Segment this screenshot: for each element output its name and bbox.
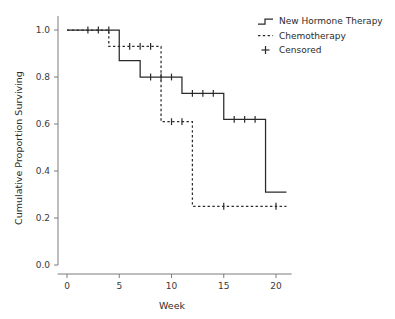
x-axis-ticks: 05101520	[64, 274, 282, 291]
y-tick-label: 0.6	[36, 119, 51, 129]
y-tick-label: 0.8	[36, 72, 51, 82]
y-axis-title: Cumulative Proportion Surviving	[13, 71, 24, 225]
legend-label: New Hormone Therapy	[279, 16, 383, 26]
chart-legend: New Hormone TherapyChemotherapyCensored	[258, 16, 383, 55]
x-tick-label: 10	[166, 281, 178, 291]
censor-marks-group	[88, 27, 276, 210]
y-tick-label: 0.2	[36, 213, 50, 223]
x-tick-label: 0	[64, 281, 70, 291]
legend-entry: Censored	[262, 45, 322, 55]
series-line-0	[67, 30, 286, 192]
series-line-1	[67, 30, 286, 206]
y-tick-label: 0.0	[36, 260, 51, 270]
legend-label: Censored	[279, 45, 321, 55]
x-tick-label: 20	[270, 281, 282, 291]
x-axis-title: Week	[159, 300, 186, 311]
y-tick-label: 1.0	[36, 25, 51, 35]
y-axis-ticks: 0.00.20.40.60.81.0	[36, 25, 58, 270]
y-tick-label: 0.4	[36, 166, 51, 176]
kaplan-meier-plot: 0.00.20.40.60.81.0 05101520 Cumulative P…	[0, 0, 395, 319]
x-tick-label: 5	[116, 281, 122, 291]
series-group	[67, 30, 286, 206]
survival-chart-figure: 0.00.20.40.60.81.0 05101520 Cumulative P…	[0, 0, 395, 319]
legend-marker-solid-step-line	[258, 19, 273, 24]
legend-label: Chemotherapy	[279, 31, 346, 41]
x-tick-label: 15	[218, 281, 229, 291]
legend-entry: New Hormone Therapy	[258, 16, 383, 26]
legend-entry: Chemotherapy	[258, 31, 346, 41]
